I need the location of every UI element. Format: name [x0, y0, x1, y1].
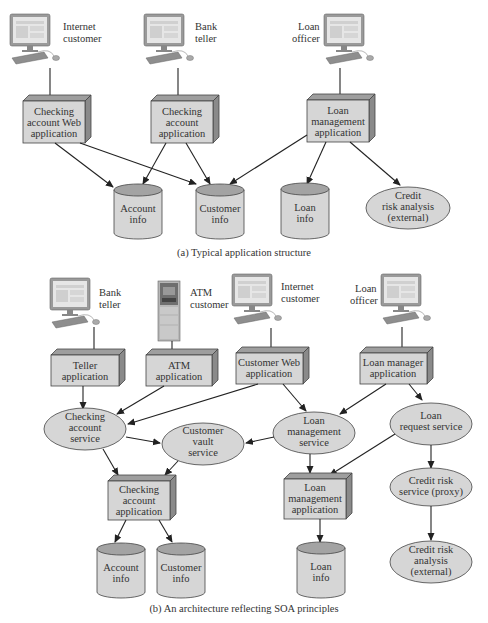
svg-text:officer: officer: [292, 33, 320, 44]
db-account-info: Account info: [97, 543, 145, 598]
svg-text:info: info: [173, 573, 190, 584]
svg-text:analysis: analysis: [414, 555, 448, 566]
svg-text:application: application: [116, 506, 163, 517]
svg-text:(external): (external): [411, 566, 452, 578]
user-internet-customer: Internet customer: [10, 14, 102, 64]
svg-text:management: management: [287, 426, 341, 437]
svg-text:info: info: [113, 573, 130, 584]
db-loan-info: Loan info: [297, 542, 345, 598]
backend-checking-account-app: Checking account application: [108, 475, 176, 520]
svg-text:request service: request service: [400, 421, 463, 432]
svg-text:Checking: Checking: [162, 106, 203, 117]
svg-text:Customer: Customer: [161, 562, 202, 573]
db-customer-info: Customer info: [157, 543, 205, 598]
svg-text:application: application: [292, 504, 339, 515]
svg-text:Checking: Checking: [65, 411, 106, 422]
svg-text:info: info: [212, 214, 229, 225]
atm-icon: [158, 281, 180, 341]
diagram-b: Bank teller ATM customer Internet custom…: [44, 274, 472, 615]
svg-text:application: application: [159, 128, 206, 139]
svg-text:customer: customer: [281, 293, 320, 304]
svg-text:customer: customer: [63, 33, 102, 44]
external-credit-risk: Credit risk analysis (external): [366, 187, 450, 229]
svg-text:application: application: [315, 127, 362, 138]
svg-text:application: application: [62, 371, 109, 382]
computer-icon: [324, 14, 374, 64]
svg-text:Loan: Loan: [327, 105, 349, 116]
svg-text:application: application: [31, 128, 78, 139]
svg-text:Credit: Credit: [395, 190, 421, 201]
db-customer-info: Customer info: [196, 184, 244, 239]
svg-text:ATM: ATM: [168, 360, 191, 371]
svg-text:Internet: Internet: [281, 281, 314, 292]
computer-icon: [381, 274, 431, 324]
svg-text:Teller: Teller: [73, 360, 98, 371]
user-internet-customer: Internet customer: [232, 274, 320, 324]
user-atm-customer: ATM customer: [158, 281, 229, 341]
app-loan-management: Loan management application: [307, 94, 375, 142]
caption-a: (a) Typical application structure: [177, 247, 311, 259]
svg-text:Bank: Bank: [195, 21, 218, 32]
svg-text:Loan: Loan: [420, 410, 442, 421]
db-account-info: Account info: [114, 184, 162, 239]
user-bank-teller: Bank teller: [50, 278, 122, 328]
svg-text:Loan: Loan: [303, 415, 325, 426]
svg-text:application: application: [156, 371, 203, 382]
svg-text:Credit risk: Credit risk: [409, 544, 454, 555]
svg-text:management: management: [288, 493, 342, 504]
svg-text:(external): (external): [388, 212, 429, 224]
svg-text:Account: Account: [103, 562, 139, 573]
svg-text:info: info: [313, 572, 330, 583]
svg-text:Bank: Bank: [99, 287, 122, 298]
service-checking-account: Checking account service: [44, 408, 126, 450]
svg-text:service: service: [188, 447, 218, 458]
svg-text:customer: customer: [190, 299, 229, 310]
svg-text:Loan: Loan: [304, 482, 326, 493]
svg-text:officer: officer: [350, 295, 378, 306]
user-bank-teller: Bank teller: [144, 14, 218, 64]
svg-text:account: account: [123, 495, 156, 506]
svg-text:Account: Account: [120, 203, 156, 214]
svg-text:teller: teller: [195, 33, 217, 44]
computer-icon: [10, 14, 60, 64]
svg-text:service: service: [299, 437, 329, 448]
service-credit-risk-proxy: Credit risk service (proxy): [390, 468, 472, 506]
svg-text:application: application: [246, 368, 293, 379]
user-loan-officer: Loan officer: [292, 14, 374, 64]
svg-text:account: account: [69, 422, 102, 433]
svg-text:Loan manager: Loan manager: [363, 357, 424, 368]
service-customer-vault: Customer vault service: [162, 423, 244, 465]
app-atm: ATM application: [146, 349, 218, 386]
svg-text:service: service: [70, 433, 100, 444]
soa-diagram: Internet customer Bank teller Loan offic…: [0, 0, 488, 623]
diagram-a: Internet customer Bank teller Loan offic…: [10, 14, 450, 259]
svg-text:risk analysis: risk analysis: [382, 201, 434, 212]
svg-text:Credit risk: Credit risk: [409, 475, 454, 486]
app-teller: Teller application: [51, 349, 125, 386]
app-customer-web: Customer Web application: [236, 347, 309, 384]
user-loan-officer: Loan officer: [350, 274, 431, 324]
service-loan-management: Loan management service: [273, 412, 355, 454]
svg-text:Customer: Customer: [200, 203, 241, 214]
computer-icon: [232, 274, 282, 324]
user-label: Internet: [63, 21, 96, 32]
svg-text:service (proxy): service (proxy): [399, 486, 463, 498]
svg-text:management: management: [311, 116, 365, 127]
svg-text:info: info: [130, 214, 147, 225]
svg-text:Loan: Loan: [310, 561, 332, 572]
computer-icon: [144, 14, 194, 64]
svg-text:Loan: Loan: [294, 202, 316, 213]
svg-text:Customer Web: Customer Web: [238, 357, 300, 368]
svg-text:Checking: Checking: [34, 106, 75, 117]
svg-text:account Web: account Web: [27, 117, 81, 128]
svg-text:Loan: Loan: [355, 283, 377, 294]
service-credit-risk-external: Credit risk analysis (external): [390, 541, 472, 583]
svg-text:info: info: [297, 213, 314, 224]
service-loan-request: Loan request service: [390, 403, 472, 445]
svg-text:teller: teller: [99, 299, 121, 310]
svg-text:application: application: [370, 368, 417, 379]
svg-text:Customer: Customer: [183, 425, 224, 436]
db-loan-info: Loan info: [281, 183, 329, 239]
app-checking-web: Checking account Web application: [23, 95, 91, 143]
backend-loan-management-app: Loan management application: [284, 473, 352, 519]
